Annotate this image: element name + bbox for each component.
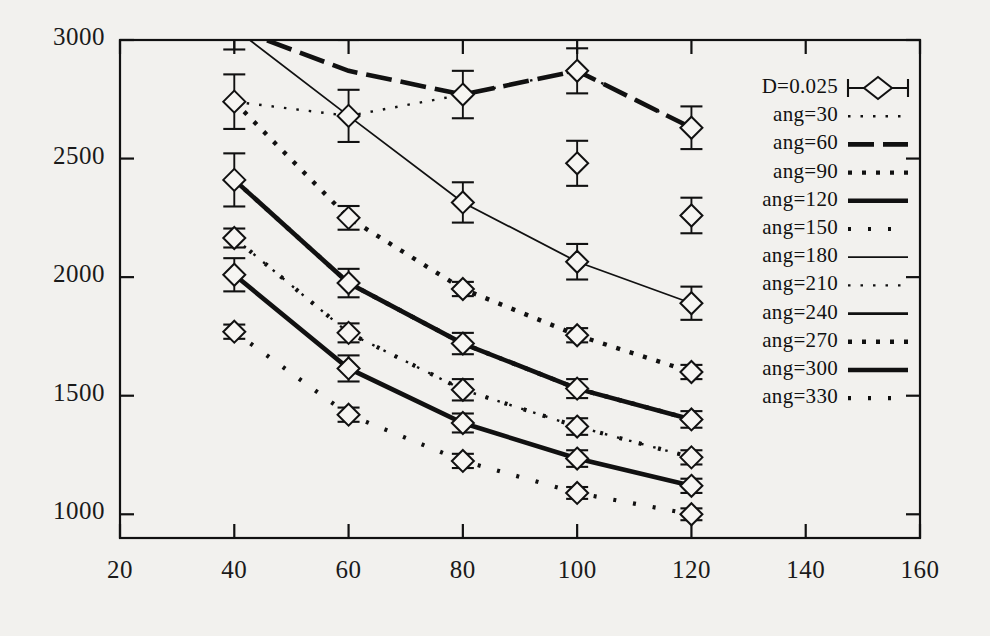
- data-point-diamond: [452, 333, 474, 355]
- data-point-diamond: [223, 91, 245, 113]
- data-point-diamond: [223, 227, 245, 249]
- data-point-diamond: [566, 251, 588, 273]
- legend-entry-label: ang=90: [600, 159, 838, 184]
- data-point-diamond: [566, 152, 588, 174]
- data-point-diamond: [452, 412, 474, 434]
- legend-entry-label: ang=330: [600, 384, 838, 409]
- x-axis-tick-label: 120: [641, 556, 741, 584]
- y-axis-tick-label: 1500: [10, 379, 105, 407]
- legend-marker-diamond: [864, 77, 892, 99]
- x-axis-tick-label: 100: [527, 556, 627, 584]
- y-axis-tick-label: 1000: [10, 497, 105, 525]
- y-axis-tick-label: 2000: [10, 260, 105, 288]
- legend-entry-label: ang=210: [600, 271, 838, 296]
- data-point-diamond: [338, 207, 360, 229]
- x-axis-tick-label: 160: [870, 556, 970, 584]
- legend-entry-label: ang=270: [600, 328, 838, 353]
- data-point-diamond: [452, 191, 474, 213]
- data-point-diamond: [680, 503, 702, 525]
- data-point-diamond: [566, 378, 588, 400]
- data-point-diamond: [452, 84, 474, 106]
- legend-entry-label: ang=60: [600, 130, 838, 155]
- legend-entry-label: D=0.025: [600, 74, 838, 99]
- x-axis-tick-label: 80: [413, 556, 513, 584]
- x-axis-tick-label: 60: [299, 556, 399, 584]
- chart-figure: 3000250020001500100020406080100120140160…: [0, 0, 990, 636]
- data-point-diamond: [566, 482, 588, 504]
- x-axis-tick-label: 140: [756, 556, 856, 584]
- legend-entry-label: ang=120: [600, 187, 838, 212]
- y-axis-tick-label: 3000: [10, 23, 105, 51]
- legend-entry-label: ang=240: [600, 300, 838, 325]
- plot-canvas: [0, 0, 990, 636]
- x-axis-tick-label: 40: [184, 556, 284, 584]
- data-point-diamond: [566, 60, 588, 82]
- legend-entry-label: ang=300: [600, 356, 838, 381]
- legend-entry-label: ang=150: [600, 215, 838, 240]
- data-point-diamond: [338, 105, 360, 127]
- x-axis-tick-label: 20: [70, 556, 170, 584]
- legend-entry-label: ang=30: [600, 102, 838, 127]
- data-point-diamond: [452, 379, 474, 401]
- y-axis-tick-label: 2500: [10, 142, 105, 170]
- legend-entry-label: ang=180: [600, 243, 838, 268]
